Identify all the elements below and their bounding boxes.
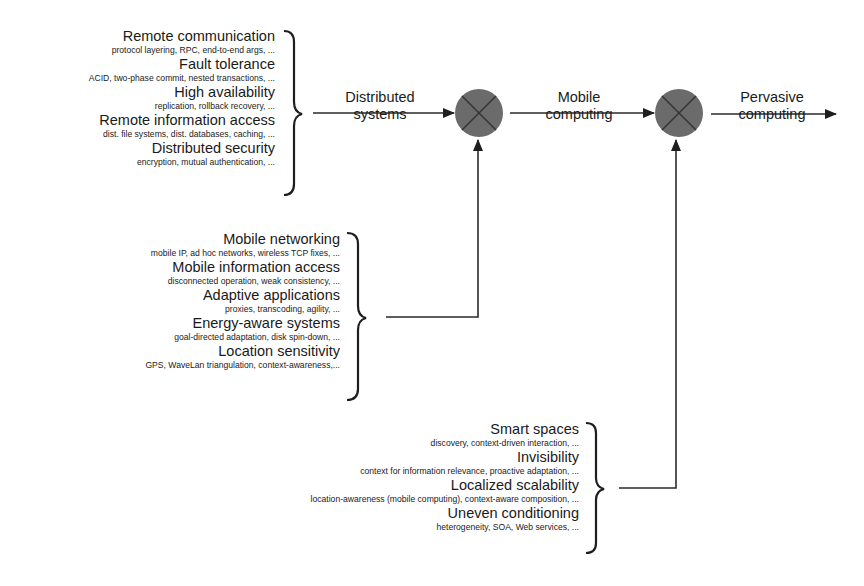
label-line: Mobile — [524, 89, 634, 106]
item-title: Invisibility — [311, 450, 579, 465]
group-distributed-systems: Remote communication protocol layering, … — [89, 29, 275, 169]
label-pervasive-computing: Pervasive computing — [717, 89, 827, 123]
brace-distributed — [284, 31, 302, 195]
item-detail: mobile IP, ad hoc networks, wireless TCP… — [145, 247, 340, 259]
item-detail: replication, rollback recovery, ... — [89, 100, 275, 112]
item-detail: heterogeneity, SOA, Web services, ... — [311, 521, 579, 533]
label-line: computing — [717, 106, 827, 123]
item-detail: disconnected operation, weak consistency… — [145, 275, 340, 287]
item-title: Mobile networking — [145, 232, 340, 247]
item-title: Uneven conditioning — [311, 506, 579, 521]
label-line: systems — [325, 106, 435, 123]
item-detail: dist. file systems, dist. databases, cac… — [89, 128, 275, 140]
group-pervasive-computing: Smart spaces discovery, context-driven i… — [311, 422, 579, 534]
item-title: Remote information access — [89, 113, 275, 128]
brace-mobile — [347, 233, 366, 400]
item-detail: GPS, WaveLan triangulation, context-awar… — [145, 359, 340, 371]
item-title: Mobile information access — [145, 260, 340, 275]
item-detail: context for information relevance, proac… — [311, 465, 579, 477]
item-detail: location-awareness (mobile computing), c… — [311, 493, 579, 505]
label-line: Distributed — [325, 89, 435, 106]
item-title: Remote communication — [89, 29, 275, 44]
item-detail: protocol layering, RPC, end-to-end args,… — [89, 44, 275, 56]
connector-mobile-to-node1 — [386, 140, 478, 317]
item-title: Energy-aware systems — [145, 316, 340, 331]
combine-node-2-icon — [655, 89, 703, 137]
item-detail: proxies, transcoding, agility, ... — [145, 303, 340, 315]
item-detail: goal-directed adaptation, disk spin-down… — [145, 331, 340, 343]
label-line: Pervasive — [717, 89, 827, 106]
brace-pervasive — [586, 423, 604, 553]
item-title: Adaptive applications — [145, 288, 340, 303]
item-detail: discovery, context-driven interaction, .… — [311, 437, 579, 449]
combine-node-1-icon — [455, 89, 503, 137]
item-title: Location sensitivity — [145, 344, 340, 359]
item-title: High availability — [89, 85, 275, 100]
label-mobile-computing: Mobile computing — [524, 89, 634, 123]
label-line: computing — [524, 106, 634, 123]
label-distributed-systems: Distributed systems — [325, 89, 435, 123]
item-detail: ACID, two-phase commit, nested transacti… — [89, 72, 275, 84]
item-title: Fault tolerance — [89, 57, 275, 72]
group-mobile-computing: Mobile networking mobile IP, ad hoc netw… — [145, 232, 340, 372]
item-detail: encryption, mutual authentication, ... — [89, 156, 275, 168]
item-title: Distributed security — [89, 141, 275, 156]
connector-pervasive-to-node2 — [619, 140, 676, 488]
item-title: Smart spaces — [311, 422, 579, 437]
item-title: Localized scalability — [311, 478, 579, 493]
